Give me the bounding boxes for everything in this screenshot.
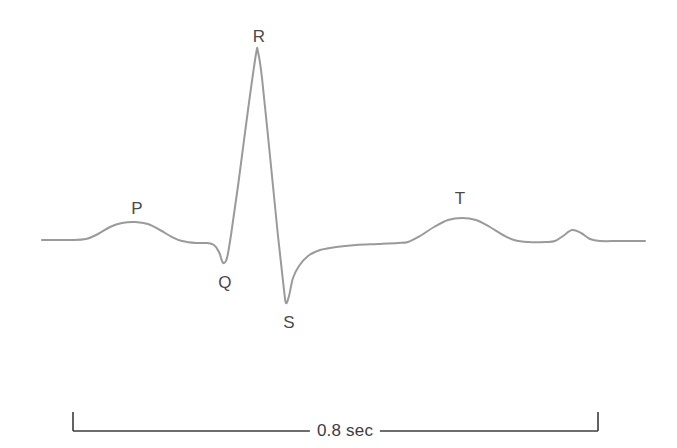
wave-label-p: P [131, 200, 143, 217]
wave-label-t: T [455, 190, 466, 207]
wave-label-s: S [283, 314, 295, 331]
ecg-figure: P Q R S T 0.8 sec [0, 0, 677, 448]
ecg-plot-area [0, 0, 677, 448]
wave-label-r: R [253, 28, 265, 45]
scale-bar-label: 0.8 sec [310, 422, 380, 439]
ecg-trace-line [42, 48, 645, 303]
wave-label-q: Q [218, 274, 231, 291]
